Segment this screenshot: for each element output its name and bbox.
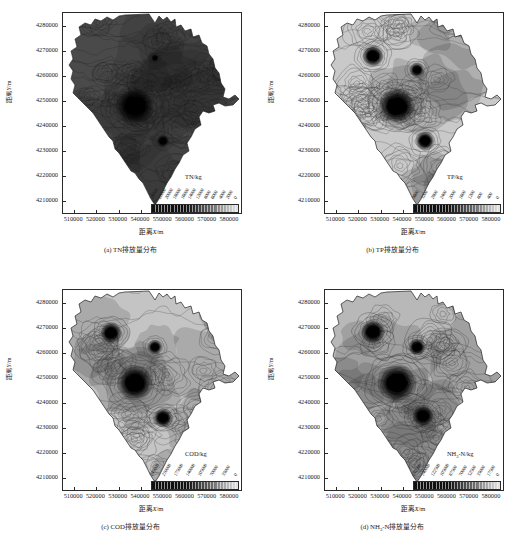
x-tick-mark — [336, 487, 337, 490]
y-axis-title: 距离Y/m — [4, 368, 13, 380]
y-axis-tick-label: 4220000 — [4, 448, 58, 455]
colorbar-a — [151, 204, 239, 213]
y-axis-tick-label: 4230000 — [266, 146, 320, 153]
y-tick-mark — [325, 328, 328, 329]
y-tick-mark — [63, 176, 66, 177]
legend-tick-label: 35000 — [221, 465, 231, 477]
y-axis-tick-label: 4280000 — [266, 21, 320, 28]
y-axis-tick-label: 4210000 — [266, 196, 320, 203]
y-axis-tick-label: 4270000 — [4, 46, 58, 53]
legend-tick-label: 2000 — [448, 190, 457, 200]
x-tick-mark — [381, 487, 382, 490]
legend-tick-label: 17500 — [485, 465, 495, 477]
y-tick-mark — [325, 176, 328, 177]
panel-caption-a: (a) TN排放量分布 — [0, 244, 261, 254]
legend-d: NH3-N/kg15750014000012250010500087500700… — [413, 450, 501, 490]
y-tick-mark — [325, 126, 328, 127]
y-tick-mark — [63, 51, 66, 52]
y-axis-tick-label: 4240000 — [266, 398, 320, 405]
y-axis-tick-label: 4270000 — [4, 323, 58, 330]
legend-tick-label: 70000 — [457, 465, 467, 477]
legend-tick-label: 400 — [485, 192, 493, 200]
x-axis-tick-label: 580000 — [474, 492, 508, 499]
panel-caption-c: (c) COD排放量分布 — [0, 521, 261, 531]
x-tick-mark — [119, 487, 120, 490]
y-tick-mark — [63, 303, 66, 304]
y-axis-title: 距离Y/m — [266, 368, 275, 380]
y-axis-title: 距离Y/m — [4, 91, 13, 103]
legend-title-d: NH3-N/kg — [447, 450, 473, 459]
x-tick-mark — [141, 210, 142, 213]
panel-caption-b: (b) TP排放量分布 — [262, 244, 523, 254]
legend-tick-label: 175000 — [173, 463, 184, 477]
legend-tick-label: 800 — [476, 192, 484, 200]
colorbar-ticks — [414, 205, 500, 212]
y-tick-mark — [63, 328, 66, 329]
y-tick-mark — [63, 428, 66, 429]
y-axis-tick-label: 4230000 — [4, 423, 58, 430]
legend-tick-label: 245000 — [149, 463, 160, 477]
legend-tick-label: 0 — [495, 472, 500, 477]
y-tick-mark — [325, 303, 328, 304]
y-axis-tick-label: 4280000 — [4, 21, 58, 28]
y-tick-mark — [325, 26, 328, 27]
legend-tick-label: 2400 — [439, 190, 448, 200]
y-axis-title: 距离Y/m — [266, 91, 275, 103]
y-axis-tick-label: 4220000 — [4, 171, 58, 178]
figure-contour-maps: TN/kg24000220002000018000160001400012000… — [0, 0, 523, 554]
y-tick-mark — [63, 453, 66, 454]
legend-tick-label: 1600 — [457, 190, 466, 200]
y-axis-tick-label: 4220000 — [266, 448, 320, 455]
y-tick-mark — [63, 101, 66, 102]
colorbar-c — [151, 481, 239, 490]
x-axis-title: 距离X/m — [62, 503, 240, 513]
y-tick-mark — [63, 378, 66, 379]
x-axis-title: 距离X/m — [62, 226, 240, 236]
x-tick-mark — [141, 487, 142, 490]
x-axis-tick-label: 580000 — [212, 215, 246, 222]
y-tick-mark — [63, 76, 66, 77]
y-tick-mark — [63, 26, 66, 27]
y-axis-tick-label: 4270000 — [266, 323, 320, 330]
legend-title-b: TP/kg — [447, 173, 463, 180]
x-tick-mark — [403, 487, 404, 490]
y-tick-mark — [63, 201, 66, 202]
y-tick-mark — [325, 378, 328, 379]
y-tick-mark — [325, 151, 328, 152]
y-axis-tick-label: 4210000 — [4, 196, 58, 203]
legend-title-a: TN/kg — [185, 173, 202, 180]
y-axis-tick-label: 4210000 — [266, 473, 320, 480]
y-tick-mark — [63, 478, 66, 479]
y-axis-tick-label: 4260000 — [266, 71, 320, 78]
y-tick-mark — [325, 453, 328, 454]
y-tick-mark — [325, 478, 328, 479]
legend-tick-label: 210000 — [161, 463, 172, 477]
colorbar-ticks — [152, 205, 238, 212]
y-axis-tick-label: 4280000 — [4, 298, 58, 305]
y-tick-mark — [325, 403, 328, 404]
x-tick-mark — [358, 210, 359, 213]
panel-c: COD/kg2450002100001750001400001050007000… — [0, 277, 261, 554]
legend-tick-label: 70000 — [209, 465, 219, 477]
y-axis-tick-label: 4240000 — [4, 121, 58, 128]
x-tick-mark — [74, 487, 75, 490]
y-tick-mark — [325, 428, 328, 429]
plot-area-d: NH3-N/kg15750014000012250010500087500700… — [324, 289, 504, 491]
legend-tick-label: 0 — [233, 472, 238, 477]
y-axis-tick-label: 4210000 — [4, 473, 58, 480]
legend-tick-label: 35000 — [476, 465, 486, 477]
x-tick-mark — [358, 487, 359, 490]
plot-area-c: COD/kg2450002100001750001400001050007000… — [62, 289, 242, 491]
plot-area-b: TP/kg36003200280024002000160012008004000 — [324, 12, 504, 214]
panel-caption-d: (d) NH3-N排放量分布 — [262, 521, 523, 532]
colorbar-ticks — [414, 482, 500, 489]
y-axis-tick-label: 4220000 — [266, 171, 320, 178]
x-axis-title: 距离X/m — [324, 226, 502, 236]
y-axis-tick-label: 4240000 — [4, 398, 58, 405]
y-axis-tick-label: 4260000 — [266, 348, 320, 355]
legend-tick-label: 0 — [233, 195, 238, 200]
legend-tick-label: 2800 — [429, 190, 438, 200]
legend-tick-label: 105000 — [197, 463, 208, 477]
x-tick-mark — [74, 210, 75, 213]
legend-tick-label: 140000 — [185, 463, 196, 477]
